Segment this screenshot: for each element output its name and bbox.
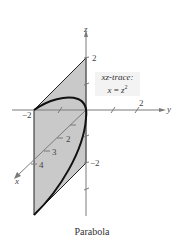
z-tick-neg2: −2 [90,159,100,168]
3d-axes-diagram [0,0,184,244]
y-axis-label: y [167,105,171,114]
trace-title: xz-trace: [95,72,140,82]
xz-trace-label-box: xz-trace: x = z2 [95,72,140,96]
trace-equation: x = z2 [95,82,140,95]
x-tick-4: 4 [39,161,44,170]
x-axis-label: x [15,177,19,186]
y-axis-arrow-icon [159,108,166,112]
figure-caption: Parabola [0,226,184,237]
z-axis-label: z [84,25,88,34]
y-tick-neg2: −2 [22,111,32,120]
x-tick-3: 3 [52,148,57,157]
y-tick-2: 2 [139,99,144,108]
xz-plane-shaded [34,58,86,215]
x-tick-2: 2 [66,135,71,144]
z-tick-2: 2 [92,54,97,63]
